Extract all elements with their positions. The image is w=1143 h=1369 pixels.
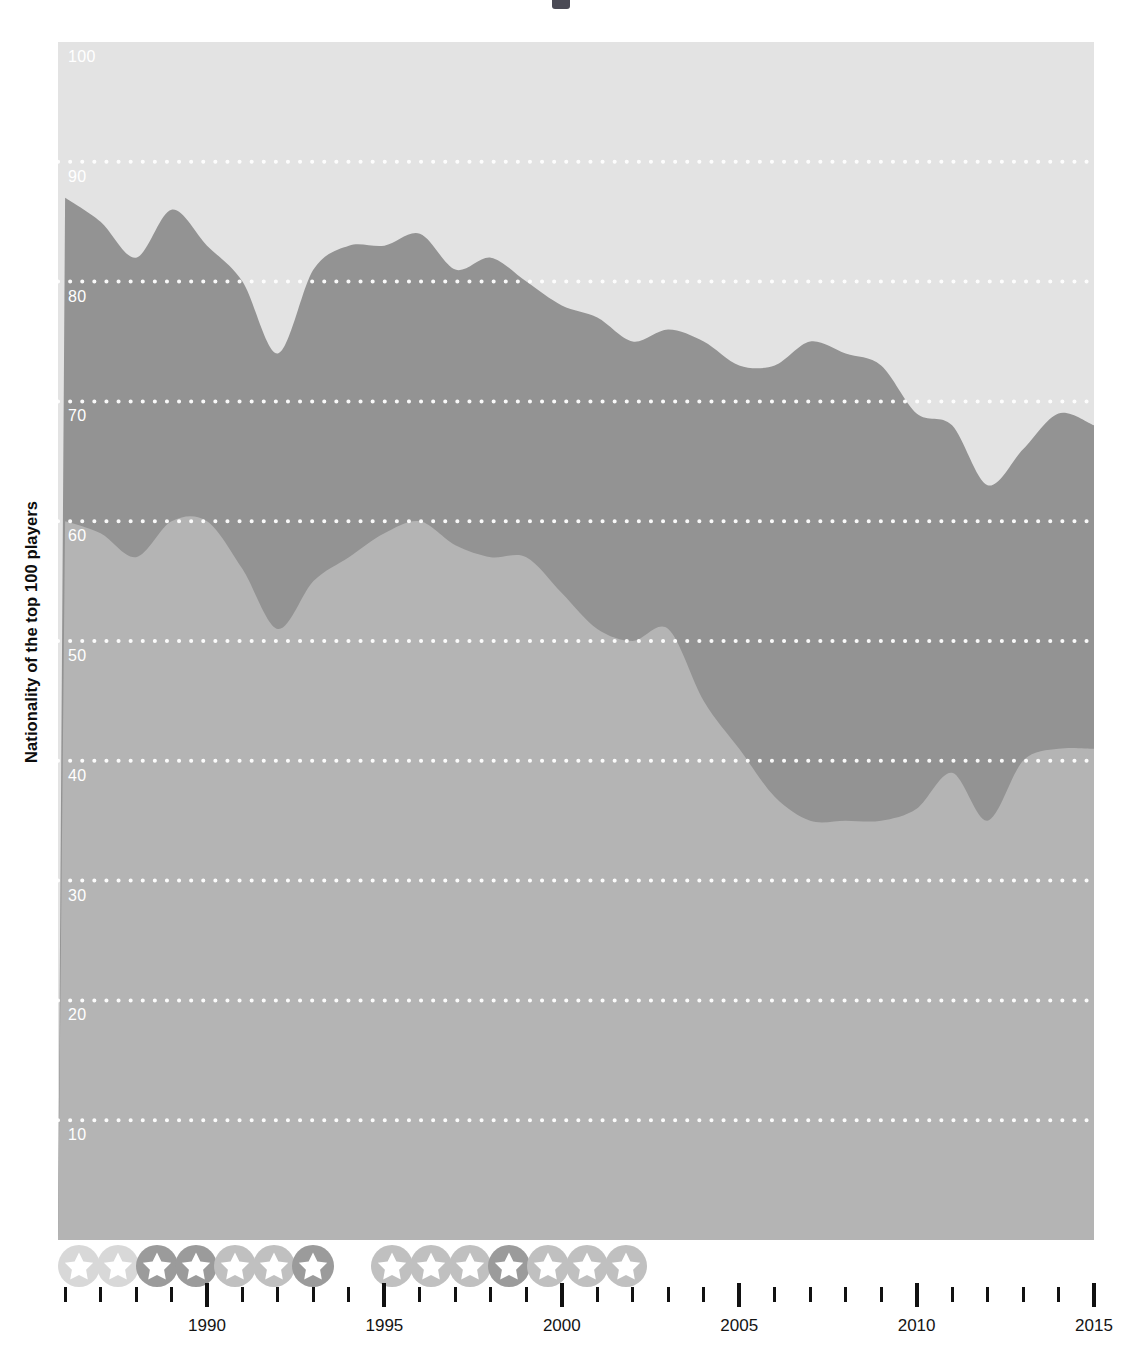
x-tick-major-2005 (737, 1283, 741, 1307)
x-tick-minor-2014 (1057, 1287, 1060, 1302)
star-in-circle-icon (174, 1244, 218, 1288)
star-in-circle-icon (57, 1244, 101, 1288)
x-tick-minor-2003 (667, 1287, 670, 1302)
star-in-circle-icon (448, 1244, 492, 1288)
y-tick-label-90: 90 (68, 168, 86, 186)
x-tick-major-2000 (560, 1283, 564, 1307)
x-tick-minor-1992 (276, 1287, 279, 1302)
y-tick-label-70: 70 (68, 407, 86, 425)
x-tick-minor-2012 (986, 1287, 989, 1302)
star-in-circle-icon (213, 1244, 257, 1288)
x-tick-minor-1996 (418, 1287, 421, 1302)
x-tick-minor-1987 (99, 1287, 102, 1302)
stacked-area-chart (58, 42, 1094, 1240)
x-tick-minor-1994 (347, 1287, 350, 1302)
y-tick-label-10: 10 (68, 1126, 86, 1144)
star-in-circle-icon (96, 1244, 140, 1288)
x-tick-minor-2009 (880, 1287, 883, 1302)
x-axis: 199019952000200520102015 (0, 1240, 1143, 1369)
x-tick-minor-2008 (844, 1287, 847, 1302)
x-tick-label-1995: 1995 (344, 1316, 424, 1336)
star-in-circle-icon (409, 1244, 453, 1288)
y-tick-label-100: 100 (68, 48, 96, 66)
x-tick-major-2010 (915, 1283, 919, 1307)
star-in-circle-icon (252, 1244, 296, 1288)
x-tick-label-1990: 1990 (167, 1316, 247, 1336)
x-tick-minor-1988 (135, 1287, 138, 1302)
x-tick-label-2005: 2005 (699, 1316, 779, 1336)
star-in-circle-icon (604, 1244, 648, 1288)
x-tick-major-1995 (382, 1283, 386, 1307)
y-axis-title: Nationality of the top 100 players (22, 467, 46, 797)
x-tick-minor-1993 (312, 1287, 315, 1302)
x-tick-minor-1998 (489, 1287, 492, 1302)
plot-area: 102030405060708090100 (58, 42, 1094, 1240)
x-tick-minor-2007 (809, 1287, 812, 1302)
star-in-circle-icon (526, 1244, 570, 1288)
x-tick-minor-2001 (596, 1287, 599, 1302)
y-tick-label-60: 60 (68, 527, 86, 545)
y-tick-label-80: 80 (68, 288, 86, 306)
x-tick-major-2015 (1092, 1283, 1096, 1307)
x-tick-label-2000: 2000 (522, 1316, 602, 1336)
star-in-circle-icon (135, 1244, 179, 1288)
star-in-circle-icon (370, 1244, 414, 1288)
x-tick-minor-1986 (64, 1287, 67, 1302)
x-tick-minor-1991 (241, 1287, 244, 1302)
x-tick-minor-2013 (1022, 1287, 1025, 1302)
x-tick-minor-2011 (951, 1287, 954, 1302)
x-tick-minor-2004 (702, 1287, 705, 1302)
star-in-circle-icon (487, 1244, 531, 1288)
y-tick-label-20: 20 (68, 1006, 86, 1024)
x-tick-label-2015: 2015 (1054, 1316, 1134, 1336)
y-tick-label-40: 40 (68, 767, 86, 785)
chart-page: Nationality of the top 100 players 10203… (0, 0, 1143, 1369)
x-tick-minor-1997 (454, 1287, 457, 1302)
y-tick-label-50: 50 (68, 647, 86, 665)
star-in-circle-icon (565, 1244, 609, 1288)
title-clipped-fragment (552, 0, 570, 9)
x-tick-minor-1989 (170, 1287, 173, 1302)
x-tick-label-2010: 2010 (877, 1316, 957, 1336)
x-tick-major-1990 (205, 1283, 209, 1307)
x-tick-minor-2006 (773, 1287, 776, 1302)
x-tick-minor-2002 (631, 1287, 634, 1302)
x-tick-minor-1999 (525, 1287, 528, 1302)
star-in-circle-icon (291, 1244, 335, 1288)
y-tick-label-30: 30 (68, 887, 86, 905)
